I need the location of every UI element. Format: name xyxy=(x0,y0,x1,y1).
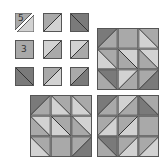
board-top-right[interactable] xyxy=(97,28,159,90)
puzzle-piece[interactable] xyxy=(70,13,89,32)
puzzle-piece[interactable] xyxy=(43,67,62,86)
puzzle-piece[interactable] xyxy=(15,67,34,86)
piece-number-label: 5 xyxy=(18,14,24,23)
puzzle-piece[interactable] xyxy=(70,67,89,86)
board-bottom-left[interactable] xyxy=(30,95,92,157)
puzzle-piece[interactable] xyxy=(43,13,62,32)
puzzle-piece[interactable] xyxy=(70,40,89,59)
puzzle-piece[interactable]: 3 xyxy=(15,40,34,59)
piece-number-label: 3 xyxy=(21,45,27,54)
puzzle-piece[interactable] xyxy=(43,40,62,59)
puzzle-piece[interactable]: 5 xyxy=(15,13,34,32)
board-bottom-right[interactable] xyxy=(97,95,159,157)
